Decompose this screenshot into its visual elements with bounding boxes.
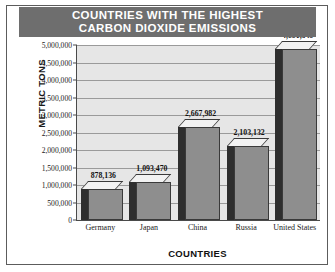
x-axis-title: COUNTRIES <box>76 248 319 259</box>
bar <box>136 182 171 220</box>
y-tick-label: 3,000,000 <box>42 111 72 120</box>
bar-top-face <box>178 119 220 127</box>
bar-front-face <box>282 49 317 220</box>
chart-title-line-1: COUNTRIES WITH THE HIGHEST <box>72 9 263 23</box>
y-tick-label: 4,000,000 <box>42 76 72 85</box>
y-tick-label: 2,500,000 <box>42 128 72 137</box>
bar-group <box>126 45 175 220</box>
x-tick-label: Japan <box>125 223 174 233</box>
chart-title-banner: COUNTRIES WITH THE HIGHEST CARBON DIOXID… <box>19 7 316 37</box>
bar-group <box>271 45 320 220</box>
bar-group <box>77 45 126 220</box>
x-tick-label: China <box>173 223 222 233</box>
bar <box>185 127 220 220</box>
bar-value-label: 1,093,470 <box>136 164 167 173</box>
bar <box>88 189 123 220</box>
bar-value-label: 2,103,132 <box>234 128 265 137</box>
chart-figure: COUNTRIES WITH THE HIGHEST CARBON DIOXID… <box>0 0 335 272</box>
x-tick-label: United States <box>270 223 319 233</box>
x-axis-tick-labels: GermanyJapanChinaRussiaUnited States <box>76 223 319 249</box>
y-tick-label: 1,000,000 <box>42 181 72 190</box>
bar-top-face <box>129 174 171 182</box>
bar-top-face <box>81 181 123 189</box>
bar-value-label: 878,136 <box>91 171 116 180</box>
bar <box>282 49 317 220</box>
y-tick-label: 500,000 <box>47 198 72 207</box>
bar-series: 878,1361,093,4702,667,9822,103,1324,881,… <box>77 45 320 220</box>
y-tick-label: 2,000,000 <box>42 146 72 155</box>
plot-area: 0500,0001,000,0001,500,0002,000,0002,500… <box>76 45 320 221</box>
bar <box>234 146 269 220</box>
bar-front-face <box>185 127 220 220</box>
bar-front-face <box>88 189 123 220</box>
bar-top-face <box>275 41 317 49</box>
bar-front-face <box>136 182 171 220</box>
y-tick-label: 1,500,000 <box>42 163 72 172</box>
chart-title-line-2: CARBON DIOXIDE EMISSIONS <box>79 22 257 36</box>
y-tick-label: 5,000,000 <box>42 41 72 50</box>
y-tick-label: 3,500,000 <box>42 93 72 102</box>
y-tick-label: 4,500,000 <box>42 58 72 67</box>
bar-front-face <box>234 146 269 220</box>
y-tick-label: 0 <box>68 216 72 225</box>
x-tick-label: Germany <box>76 223 125 233</box>
x-tick-label: Russia <box>222 223 271 233</box>
bar-top-face <box>227 138 269 146</box>
bar-group <box>174 45 223 220</box>
bar-value-label: 2,667,982 <box>185 109 216 118</box>
